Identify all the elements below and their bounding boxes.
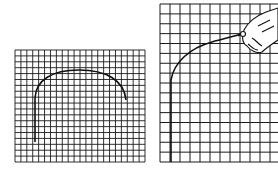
hand-with-pen-icon [238, 8, 278, 53]
illustration [0, 0, 278, 173]
arch-curve [35, 70, 126, 142]
